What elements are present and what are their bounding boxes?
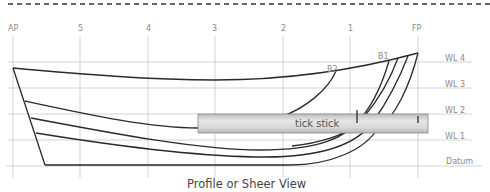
waterline-label-datum: Datum — [446, 157, 473, 166]
waterline-label-wl1: WL 1 — [445, 132, 465, 141]
station-label-ap: AP — [8, 24, 18, 33]
buttock-line-upper — [25, 101, 198, 128]
tick-stick-label: tick stick — [295, 118, 340, 129]
waterline-label-wl2: WL 2 — [445, 106, 465, 115]
station-label-2: 2 — [281, 24, 286, 33]
buttock-line-mid — [31, 58, 398, 150]
diagram-title: Profile or Sheer View — [187, 177, 306, 191]
buttock-line-lower — [36, 56, 408, 157]
station-label-1: 1 — [348, 24, 353, 33]
sheer-line — [13, 53, 418, 80]
station-label-4: 4 — [146, 24, 151, 33]
buttock-label-b2: B2 — [327, 65, 338, 74]
waterline-label-wl3: WL 3 — [445, 80, 465, 89]
station-label-3: 3 — [212, 24, 217, 33]
tick-stick[interactable]: tick stick — [198, 110, 428, 133]
station-label-5: 5 — [78, 24, 83, 33]
station-label-fp: FP — [412, 24, 422, 33]
buttock-label-b1: B1 — [378, 52, 389, 61]
waterline-label-wl4: WL 4 — [445, 54, 465, 63]
keel-line — [45, 128, 378, 165]
buttock-b2 — [283, 71, 336, 116]
stern-line — [13, 68, 45, 165]
station-grid — [13, 36, 418, 178]
sheer-profile-diagram: AP 5 4 3 2 1 FP WL 4 WL 3 WL 2 WL 1 Datu… — [0, 0, 490, 192]
hull-lines — [13, 53, 418, 165]
